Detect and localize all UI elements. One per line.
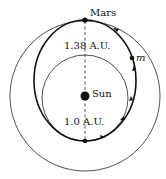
mars-dot xyxy=(82,17,87,22)
mass-label: m xyxy=(136,52,145,63)
arrow-icon xyxy=(120,116,125,120)
orbit-diagram: Mars 1.38 A.U. m Sun 1.0 A.U. xyxy=(0,0,166,179)
sun-dot xyxy=(81,92,90,101)
earth-dot xyxy=(83,139,88,144)
arrow-icon xyxy=(129,96,133,101)
mars-distance-label: 1.38 A.U. xyxy=(64,40,111,51)
sun-label: Sun xyxy=(92,88,112,99)
earth-distance-label: 1.0 A.U. xyxy=(64,116,104,127)
mass-dot xyxy=(130,56,135,61)
mars-label: Mars xyxy=(90,7,116,18)
